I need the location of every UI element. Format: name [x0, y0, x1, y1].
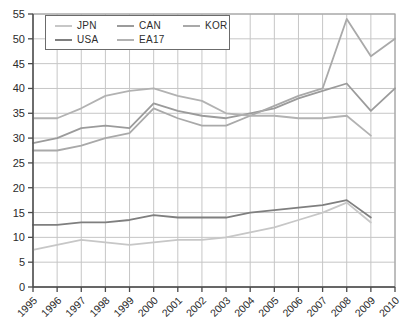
- y-tick-label: 55: [13, 8, 25, 20]
- line-chart: 0510152025303540455055199519961997199819…: [0, 0, 409, 324]
- x-tick-label: 2008: [328, 294, 353, 319]
- y-tick-label: 20: [13, 182, 25, 194]
- legend-item-USA: USA: [55, 34, 117, 45]
- legend-swatch-EA17: [117, 39, 134, 41]
- y-tick-label: 15: [13, 207, 25, 219]
- y-tick-label: 0: [19, 281, 25, 293]
- legend-label-USA: USA: [77, 34, 98, 45]
- x-tick-label: 2005: [256, 294, 281, 319]
- legend-item-EA17: EA17: [117, 34, 183, 45]
- legend-label-EA17: EA17: [139, 34, 165, 45]
- legend-label-KOR: KOR: [205, 20, 228, 31]
- y-tick-label: 25: [13, 157, 25, 169]
- legend-swatch-KOR: [183, 25, 200, 27]
- y-tick-label: 10: [13, 231, 25, 243]
- x-tick-label: 1997: [63, 294, 88, 319]
- x-tick-label: 1999: [111, 294, 136, 319]
- x-tick-label: 2003: [207, 294, 232, 319]
- x-tick-label: 2001: [159, 294, 184, 319]
- x-tick-label: 2010: [376, 294, 401, 319]
- legend-item-JPN: JPN: [55, 20, 117, 31]
- legend-item-CAN: CAN: [117, 20, 183, 31]
- y-tick-label: 30: [13, 132, 25, 144]
- legend-swatch-CAN: [117, 25, 134, 27]
- x-tick-label: 2000: [135, 294, 160, 319]
- y-tick-label: 35: [13, 107, 25, 119]
- x-tick-label: 1998: [87, 294, 112, 319]
- legend-label-JPN: JPN: [77, 20, 97, 31]
- x-tick-label: 2004: [232, 294, 257, 319]
- x-tick-label: 2009: [352, 294, 377, 319]
- plot-border: [33, 14, 395, 287]
- x-tick-label: 2006: [280, 294, 305, 319]
- legend-label-CAN: CAN: [139, 20, 161, 31]
- legend-swatch-JPN: [55, 25, 72, 27]
- x-tick-label: 2007: [304, 294, 329, 319]
- y-tick-label: 45: [13, 58, 25, 70]
- legend-item-KOR: KOR: [183, 20, 227, 31]
- y-tick-label: 5: [19, 256, 25, 268]
- legend: JPNCANKORUSAEA17: [45, 15, 230, 50]
- x-tick-label: 1995: [14, 294, 39, 319]
- y-tick-label: 50: [13, 33, 25, 45]
- x-tick-label: 1996: [39, 294, 64, 319]
- x-tick-label: 2002: [183, 294, 208, 319]
- legend-swatch-USA: [55, 39, 72, 41]
- y-tick-label: 40: [13, 82, 25, 94]
